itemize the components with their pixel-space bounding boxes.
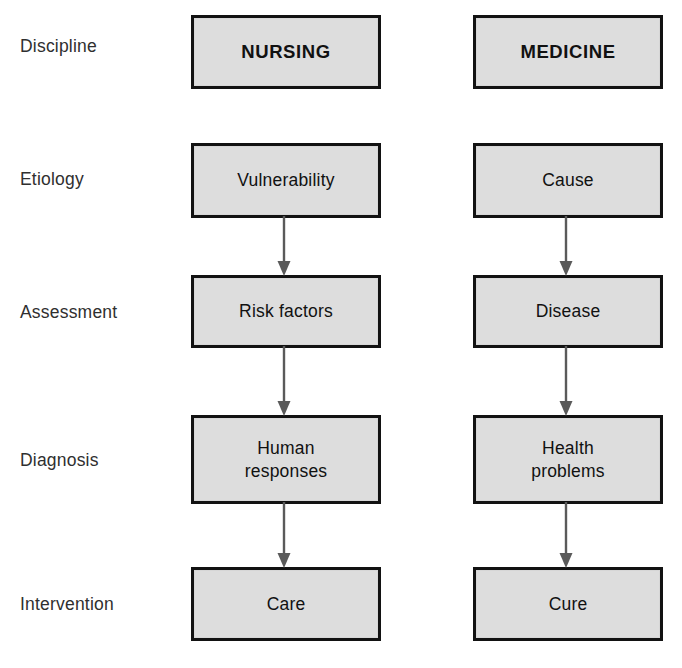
arrow-medicine-etiology-to-assessment [550,216,582,278]
node-medicine-diagnosis-text: Health problems [531,437,605,482]
row-label-diagnosis: Diagnosis [20,452,99,470]
diagram-canvas: Discipline Etiology Assessment Diagnosis… [0,0,682,668]
row-label-intervention: Intervention [20,596,114,614]
node-medicine-intervention-text: Cure [549,593,588,615]
node-medicine-intervention[interactable]: Cure [473,567,663,641]
arrow-nursing-diagnosis-to-intervention [268,502,300,570]
node-nursing-discipline[interactable]: NURSING [191,15,381,89]
arrow-nursing-assessment-to-diagnosis [268,346,300,418]
node-medicine-etiology-text: Cause [542,169,594,191]
node-nursing-assessment[interactable]: Risk factors [191,275,381,348]
node-nursing-etiology-text: Vulnerability [237,169,334,191]
row-label-etiology: Etiology [20,171,84,189]
node-medicine-etiology[interactable]: Cause [473,143,663,218]
node-nursing-assessment-text: Risk factors [239,300,333,322]
arrow-medicine-assessment-to-diagnosis [550,346,582,418]
arrow-nursing-etiology-to-assessment [268,216,300,278]
node-medicine-diagnosis[interactable]: Health problems [473,415,663,504]
node-medicine-assessment[interactable]: Disease [473,275,663,348]
node-nursing-intervention[interactable]: Care [191,567,381,641]
node-nursing-etiology[interactable]: Vulnerability [191,143,381,218]
node-nursing-discipline-text: NURSING [241,40,331,64]
node-nursing-diagnosis[interactable]: Human responses [191,415,381,504]
node-nursing-intervention-text: Care [267,593,306,615]
row-label-assessment: Assessment [20,304,117,322]
node-medicine-discipline-text: MEDICINE [520,40,615,64]
node-medicine-assessment-text: Disease [536,300,601,322]
arrow-medicine-diagnosis-to-intervention [550,502,582,570]
node-medicine-discipline[interactable]: MEDICINE [473,15,663,89]
node-nursing-diagnosis-text: Human responses [245,437,328,482]
row-label-discipline: Discipline [20,38,97,56]
